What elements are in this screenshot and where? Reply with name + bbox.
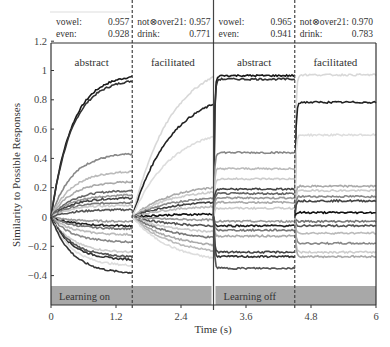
y-tick-label: −0.2 bbox=[28, 241, 47, 252]
panel-labels: abstractfacilitatedabstractfacilitated bbox=[75, 56, 358, 68]
series-line bbox=[295, 196, 376, 218]
x-tick-label: 6 bbox=[373, 311, 378, 322]
score-name: drink: bbox=[300, 29, 323, 39]
x-tick-label: 0 bbox=[48, 311, 53, 322]
y-tick-label: 0 bbox=[42, 212, 47, 223]
y-tick-label: 1 bbox=[42, 65, 47, 76]
score-value: 0.783 bbox=[352, 29, 374, 39]
panel-label: abstract bbox=[75, 56, 109, 68]
series-line bbox=[214, 207, 295, 218]
phase-bar-label: Learning on bbox=[59, 291, 111, 302]
y-axis-title: Similarity to Possible Responses bbox=[10, 103, 22, 247]
y-tick-label: 0.8 bbox=[34, 94, 47, 105]
y-tick-label: 0.6 bbox=[34, 124, 47, 135]
series-line bbox=[132, 76, 213, 217]
x-tick-label: 1.2 bbox=[109, 311, 122, 322]
score-value: 0.957 bbox=[108, 17, 130, 27]
score-value: 0.970 bbox=[352, 17, 374, 27]
x-tick-label: 2.4 bbox=[174, 311, 188, 322]
series-line bbox=[214, 75, 295, 217]
score-value: 0.957 bbox=[189, 17, 211, 27]
score-name: even: bbox=[56, 29, 77, 39]
y-tick-label: 0.4 bbox=[34, 153, 48, 164]
similarity-chart: vowel:0.957even:0.928not⊗over21:0.957dri… bbox=[0, 0, 390, 347]
series-line bbox=[214, 218, 295, 231]
score-value: 0.771 bbox=[189, 29, 211, 39]
score-name: vowel: bbox=[56, 17, 82, 27]
x-tick-label: 4.8 bbox=[304, 311, 317, 322]
score-value: 0.941 bbox=[270, 29, 292, 39]
y-tick-label: −0.4 bbox=[28, 270, 48, 281]
score-header: vowel:0.957even:0.928not⊗over21:0.957dri… bbox=[50, 12, 373, 39]
score-name: vowel: bbox=[219, 17, 245, 27]
phase-bar-label: Learning off bbox=[224, 291, 277, 302]
series-line bbox=[214, 216, 295, 269]
score-value: 0.965 bbox=[270, 17, 292, 27]
series-line bbox=[132, 104, 213, 217]
score-name: not⊗over21: bbox=[300, 17, 349, 27]
axes: 1.210.80.60.40.20−0.2−0.401.22.43.64.86 bbox=[28, 36, 379, 322]
series-line bbox=[295, 74, 376, 217]
panel-label: facilitated bbox=[151, 56, 195, 68]
series-line bbox=[214, 217, 295, 222]
y-tick-label: 1.2 bbox=[34, 36, 47, 47]
score-name: not⊗over21: bbox=[137, 17, 186, 27]
score-name: even: bbox=[219, 29, 240, 39]
series-line bbox=[295, 212, 376, 217]
panel-dividers bbox=[132, 0, 295, 310]
series-line bbox=[295, 134, 376, 216]
panel-label: abstract bbox=[237, 56, 271, 68]
panel-label: facilitated bbox=[313, 56, 357, 68]
x-tick-label: 3.6 bbox=[239, 311, 252, 322]
y-tick-label: 0.2 bbox=[34, 182, 47, 193]
series-line bbox=[214, 78, 295, 217]
series-line bbox=[214, 193, 295, 217]
score-value: 0.928 bbox=[108, 29, 130, 39]
score-name: drink: bbox=[137, 29, 160, 39]
x-axis-title: Time (s) bbox=[194, 323, 232, 336]
series-line bbox=[295, 200, 376, 218]
series-line bbox=[295, 218, 376, 223]
series-line bbox=[214, 202, 295, 218]
